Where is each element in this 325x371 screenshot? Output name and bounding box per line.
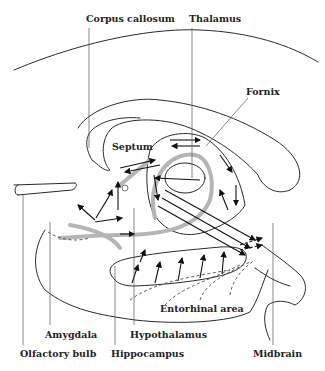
cortex-outline	[14, 30, 318, 70]
anterior-commissure	[122, 185, 128, 191]
inner-callosum-outline	[87, 118, 140, 160]
arrow	[132, 265, 138, 283]
arrow	[96, 190, 112, 218]
limbic-system-diagram	[0, 0, 325, 371]
arrow	[95, 218, 122, 222]
midbrain-inner	[255, 268, 290, 286]
label-hippocampus: Hippocampus	[111, 349, 184, 359]
olfactory-bulb-outline	[14, 183, 76, 195]
entorhinal-dashed	[130, 270, 230, 300]
label-midbrain: Midbrain	[253, 349, 302, 359]
fornix-tract-upper	[120, 160, 150, 185]
label-entorhinal-area: Entorhinal area	[160, 304, 244, 314]
label-corpus-callosum: Corpus callosum	[86, 14, 175, 24]
arrow	[155, 178, 200, 180]
arrow	[155, 262, 160, 283]
label-septum: Septum	[112, 142, 153, 152]
arrow	[220, 190, 228, 210]
label-olfactory-bulb: Olfactory bulb	[20, 349, 96, 359]
thalamus-core	[165, 163, 205, 193]
arrow	[78, 205, 95, 220]
label-thalamus: Thalamus	[189, 14, 241, 24]
entorhinal-dashed-3	[200, 262, 250, 300]
midbrain-outline	[262, 245, 305, 340]
arrow	[178, 258, 182, 281]
fornix-tract	[60, 154, 212, 238]
label-hypothalamus: Hypothalamus	[130, 330, 207, 340]
arrow	[240, 245, 262, 250]
label-amygdala: Amygdala	[45, 330, 97, 340]
label-fornix: Fornix	[246, 87, 280, 97]
entorhinal-dashed-2	[165, 265, 240, 305]
